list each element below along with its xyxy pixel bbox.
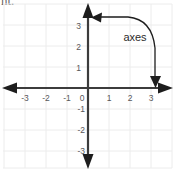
y-tick-label: -2: [77, 125, 85, 135]
axes-diagram-svg: -3 -2 -1 0 1 2 3 3 2 1 -1 -2 -3 axes: [0, 0, 175, 171]
y-tick-label: 1: [76, 63, 81, 73]
annotation-label-axes: axes: [123, 31, 147, 43]
y-axis-bottom-arrowhead: [83, 154, 94, 169]
y-axis-top-arrowhead: [83, 3, 94, 18]
y-tick-label: 3: [76, 21, 81, 31]
x-tick-label: -3: [21, 93, 29, 103]
x-tick-label: 1: [107, 93, 112, 103]
x-tick-label: -2: [42, 93, 50, 103]
y-tick-label: -1: [77, 104, 85, 114]
x-tick-label: 2: [128, 93, 133, 103]
x-tick-label: 3: [149, 93, 154, 103]
x-axis-right-arrowhead: [158, 83, 173, 94]
annotation-arrowhead-left: [91, 13, 102, 23]
y-tick-label: 2: [76, 42, 81, 52]
origin-label: 0: [80, 93, 85, 103]
y-axis: [83, 3, 94, 169]
y-tick-label: -3: [77, 146, 85, 156]
annotation-curve-path: [99, 17, 155, 78]
coordinate-plane-figure: nt.: [0, 0, 175, 171]
x-tick-label: -1: [63, 93, 71, 103]
